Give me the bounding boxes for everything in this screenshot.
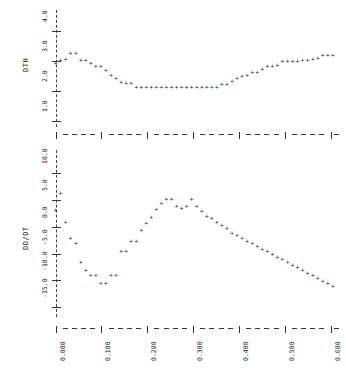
x-tick-label: 0.300 [196,341,204,361]
data-point [53,207,58,212]
y-tick-label: 3.0 [41,40,49,52]
y-axis-title-bottom: DD/DT [22,226,30,250]
x-tick-minor [228,134,233,135]
data-point [93,272,98,277]
x-tick-minor [127,328,132,329]
x-tick-minor [182,328,187,329]
x-tick-minor [118,134,123,135]
data-point [184,203,189,208]
x-tick-label: 0.600 [334,341,342,361]
y-tick-mark [52,254,61,255]
y-tick-label: -10.0 [41,252,49,272]
x-tick-minor [200,134,205,135]
data-point [169,196,174,201]
y-tick-mark [52,31,61,32]
y-tick-label: 0.0 [41,206,49,218]
data-point [189,196,194,201]
x-tick-minor [292,328,297,329]
x-tick-minor [301,328,306,329]
data-point [134,238,139,243]
x-tick-minor [310,134,315,135]
y-tick-mark [52,91,61,92]
x-tick-minor [90,134,95,135]
data-point [73,240,78,245]
x-tick-major [101,132,102,139]
x-tick-minor [154,328,159,329]
plot-area-top [50,20,342,125]
x-tick-minor [164,134,169,135]
x-tick-minor [319,134,324,135]
x-tick-minor [255,328,260,329]
x-tick-minor [228,328,233,329]
x-tick-minor [246,134,251,135]
x-tick-major [239,326,240,333]
y-tick-label: 4.0 [41,10,49,22]
x-tick-minor [334,328,339,329]
x-tick-minor [264,134,269,135]
x-tick-minor [274,328,279,329]
x-tick-minor [209,328,214,329]
x-tick-minor [219,328,224,329]
y-tick-mark [52,173,61,174]
data-point [139,227,144,232]
data-point [63,56,68,61]
x-tick-major [285,326,286,333]
y-tick-label: -5.0 [41,229,49,245]
x-tick-minor [90,328,95,329]
reference-vline [56,150,57,317]
y-tick-label: 10.0 [41,149,49,165]
x-tick-minor [209,134,214,135]
y-tick-label: 2.0 [41,70,49,82]
y-tick-label: 1.0 [41,100,49,112]
x-tick-minor [109,328,114,329]
x-tick-minor [334,134,339,135]
x-tick-major [331,132,332,139]
x-tick-label: 0.000 [59,341,67,361]
data-point [124,248,129,253]
x-tick-minor [264,328,269,329]
x-tick-major [147,326,148,333]
y-axis-title-top: DTH [22,58,30,72]
panel-dddt: DD/DT -15.0-10.0-5.00.05.010.00.0000.100… [0,150,346,368]
x-tick-minor [319,328,324,329]
data-point [144,220,149,225]
x-tick-minor [81,134,86,135]
x-tick-major [193,132,194,139]
x-tick-minor [301,134,306,135]
x-tick-label: 0.500 [288,341,296,361]
x-tick-minor [81,328,86,329]
data-point [149,214,154,219]
data-point [103,280,108,285]
x-tick-major [56,132,57,139]
x-tick-minor [292,134,297,135]
x-tick-minor [255,134,260,135]
x-tick-minor [173,134,178,135]
x-tick-minor [310,328,315,329]
data-point [58,190,63,195]
x-tick-major [101,326,102,333]
x-tick-minor [72,328,77,329]
x-tick-major [239,132,240,139]
x-tick-minor [127,134,132,135]
y-tick-mark [52,121,61,122]
reference-vline [56,10,57,127]
data-point [330,283,335,288]
x-tick-minor [274,134,279,135]
x-tick-minor [109,134,114,135]
panel-dth: DTH 1.02.03.04.0 [0,0,346,145]
data-point [63,219,68,224]
x-tick-label: 0.400 [242,341,250,361]
x-tick-minor [118,328,123,329]
x-tick-minor [173,328,178,329]
y-tick-mark [52,200,61,201]
data-point [78,259,83,264]
x-tick-minor [200,328,205,329]
x-tick-minor [63,134,68,135]
x-tick-minor [182,134,187,135]
x-tick-label: 0.100 [104,341,112,361]
plot-area-bottom [50,160,342,315]
x-tick-minor [154,134,159,135]
y-tick-mark [52,280,61,281]
x-tick-minor [219,134,224,135]
data-point [114,272,119,277]
